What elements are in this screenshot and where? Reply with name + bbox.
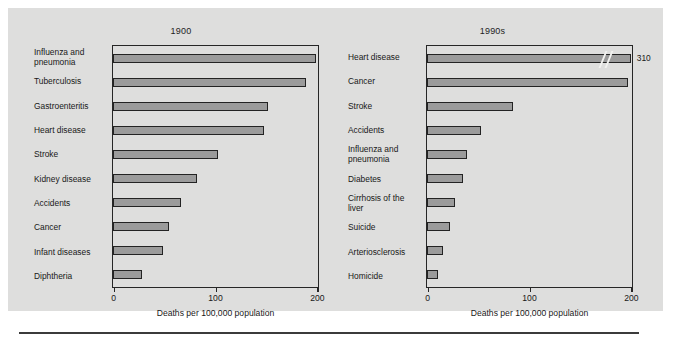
bar (427, 174, 463, 183)
category-label: Stroke (348, 94, 424, 118)
bar-row (113, 70, 318, 94)
bar (427, 198, 455, 207)
chart-title-1900: 1900 (38, 26, 324, 36)
category-label: Diphtheria (34, 264, 110, 288)
category-labels-1990s: Heart disease Cancer Stroke Accidents In… (348, 45, 424, 288)
bar-series-1990s: 310 (427, 46, 632, 287)
bar (113, 174, 197, 183)
x-axis-tick-label: 0 (111, 293, 116, 303)
bar-row (113, 215, 318, 239)
bar (427, 150, 467, 159)
category-label: Influenza and pneumonia (348, 142, 424, 166)
category-label: Heart disease (34, 118, 110, 142)
plot-area-1990s: 310 (426, 45, 633, 288)
category-label: Cancer (348, 69, 424, 93)
bar (113, 150, 218, 159)
bar-row (427, 191, 632, 215)
category-label: Homicide (348, 264, 424, 288)
category-label: Influenza and pneumonia (34, 45, 110, 69)
category-label: Heart disease (348, 45, 424, 69)
x-axis-title-1990s: Deaths per 100,000 population (426, 308, 633, 318)
x-axis-tick-label: 100 (522, 293, 536, 303)
bar (113, 270, 142, 279)
bar (427, 270, 438, 279)
bar-row: 310 (427, 46, 632, 70)
bar (427, 102, 513, 111)
bar (113, 222, 169, 231)
x-axis-tick-label: 200 (310, 293, 324, 303)
bar-row (427, 118, 632, 142)
bar-truncated (427, 54, 631, 63)
bar (113, 126, 264, 135)
bar-row (427, 239, 632, 263)
bar-value-label: 310 (637, 53, 651, 63)
bar-row (113, 239, 318, 263)
bar-row (113, 94, 318, 118)
bar-row (427, 166, 632, 190)
bar-series-1900 (113, 46, 318, 287)
bar-row (113, 118, 318, 142)
x-axis-tick (114, 288, 115, 292)
chart-1900: 1900 Influenza and pneumonia Tuberculosi… (8, 8, 338, 311)
bar-row (113, 142, 318, 166)
axis-break-icon (600, 51, 613, 68)
bar (113, 78, 306, 87)
bar-row (113, 263, 318, 287)
chart-title-1990s: 1990s (362, 26, 623, 36)
bar (113, 54, 316, 63)
category-label: Gastroenteritis (34, 94, 110, 118)
bar-row (427, 215, 632, 239)
x-axis-tick (216, 288, 217, 292)
x-axis-tick-label: 0 (425, 293, 430, 303)
bar (427, 222, 450, 231)
x-axis-tick (631, 288, 632, 292)
x-axis-tick (530, 288, 531, 292)
category-label: Accidents (34, 191, 110, 215)
bar-row (427, 263, 632, 287)
bar-row (113, 166, 318, 190)
x-axis-tick (317, 288, 318, 292)
category-label: Cirrhosis of the liver (348, 191, 424, 215)
bar-row (427, 142, 632, 166)
category-label: Infant diseases (34, 239, 110, 263)
bar-row (427, 94, 632, 118)
category-label: Stroke (34, 142, 110, 166)
x-axis-title-1900: Deaths per 100,000 population (112, 308, 319, 318)
category-label: Diabetes (348, 166, 424, 190)
x-axis-tick-label: 200 (624, 293, 638, 303)
x-axis-tick-label: 100 (208, 293, 222, 303)
bar (427, 126, 481, 135)
bar (113, 102, 268, 111)
bar (113, 198, 181, 207)
category-label: Tuberculosis (34, 69, 110, 93)
footer-divider (19, 332, 639, 334)
bar (427, 246, 443, 255)
figure-panel: 1900 Influenza and pneumonia Tuberculosi… (8, 8, 663, 311)
category-label: Accidents (348, 118, 424, 142)
category-label: Suicide (348, 215, 424, 239)
category-label: Arteriosclerosis (348, 239, 424, 263)
category-labels-1900: Influenza and pneumonia Tuberculosis Gas… (34, 45, 110, 288)
chart-1990s: 1990s Heart disease Cancer Stroke Accide… (338, 8, 663, 311)
plot-area-1900 (112, 45, 319, 288)
bar-row (113, 46, 318, 70)
x-axis-tick (428, 288, 429, 292)
category-label: Cancer (34, 215, 110, 239)
bar-row (427, 70, 632, 94)
bar-row (113, 191, 318, 215)
bar (427, 78, 628, 87)
bar (113, 246, 163, 255)
category-label: Kidney disease (34, 166, 110, 190)
